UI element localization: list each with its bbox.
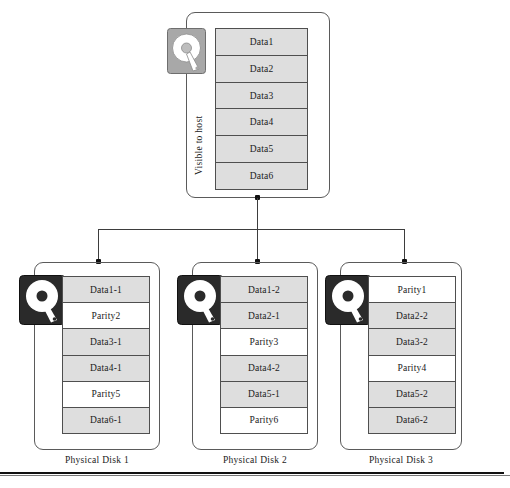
physical-disk-2-stripe-cell: Data2-1 <box>220 302 308 329</box>
physical-disk-3-label: Physical Disk 3 <box>340 455 462 465</box>
physical-disk-2-stripe-cell: Parity3 <box>220 328 308 355</box>
physical-disk-2-stripe-cell: Data4-2 <box>220 355 308 382</box>
host-stripe-cell: Data6 <box>215 162 308 190</box>
connector-drop-disk1 <box>98 229 99 262</box>
physical-disk-1-stripe-cell: Data3-1 <box>62 328 150 355</box>
hard-disk-icon <box>167 28 206 74</box>
physical-disk-2-stripe-cell: Data1-2 <box>220 276 308 303</box>
physical-disk-1-stripe-cell: Parity5 <box>62 381 150 408</box>
visible-to-host-label: Visible to host <box>194 116 204 175</box>
raid-diagram-canvas: Visible to host Data1Data2Data3Data4Data… <box>0 0 510 488</box>
physical-disk-3-stripe-cell: Data6-2 <box>368 407 456 434</box>
hard-disk-icon <box>177 275 224 325</box>
connector-bus <box>98 229 405 230</box>
physical-disk-2-stripe-stack: Data1-2Data2-1Parity3Data4-2Data5-1Parit… <box>220 276 308 434</box>
physical-disk-1-label: Physical Disk 1 <box>34 455 160 465</box>
physical-disk-3-stripe-cell: Parity4 <box>368 355 456 382</box>
host-stripe-cell: Data3 <box>215 82 308 110</box>
host-stripe-cell: Data5 <box>215 135 308 163</box>
physical-disk-3-stripe-cell: Data2-2 <box>368 302 456 329</box>
host-stripe-cell: Data4 <box>215 108 308 136</box>
physical-disk-1-stripe-cell: Data1-1 <box>62 276 150 303</box>
physical-disk-1-stripe-stack: Data1-1Parity2Data3-1Data4-1Parity5Data6… <box>62 276 150 434</box>
physical-disk-2-stripe-cell: Data5-1 <box>220 381 308 408</box>
connector-trunk-center <box>257 198 258 262</box>
host-stripe-stack: Data1Data2Data3Data4Data5Data6 <box>215 28 308 190</box>
physical-disk-2-stripe-cell: Parity6 <box>220 407 308 434</box>
physical-disk-3-stripe-cell: Data3-2 <box>368 328 456 355</box>
page-rule-secondary <box>0 475 510 476</box>
physical-disk-1-stripe-cell: Data6-1 <box>62 407 150 434</box>
physical-disk-3-stripe-stack: Parity1Data2-2Data3-2Parity4Data5-2Data6… <box>368 276 456 434</box>
host-stripe-cell: Data2 <box>215 55 308 83</box>
page-rule <box>0 472 504 474</box>
physical-disk-2-label: Physical Disk 2 <box>192 455 318 465</box>
hard-disk-icon <box>325 275 372 325</box>
physical-disk-1-stripe-cell: Parity2 <box>62 302 150 329</box>
physical-disk-1-stripe-cell: Data4-1 <box>62 355 150 382</box>
physical-disk-3-stripe-cell: Data5-2 <box>368 381 456 408</box>
physical-disk-3-stripe-cell: Parity1 <box>368 276 456 303</box>
hard-disk-icon <box>19 275 66 325</box>
connector-drop-disk3 <box>404 229 405 262</box>
host-stripe-cell: Data1 <box>215 28 308 56</box>
